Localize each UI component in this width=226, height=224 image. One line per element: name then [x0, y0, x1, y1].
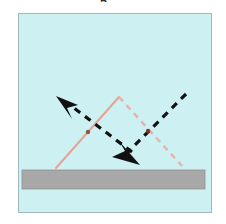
- intersection-left-node: [86, 130, 90, 134]
- reflecting-surface-bar: [22, 170, 205, 189]
- intersection-right-node: [146, 129, 150, 133]
- optics-reflection-diagram: [0, 0, 226, 224]
- figure-root: g: [0, 0, 226, 224]
